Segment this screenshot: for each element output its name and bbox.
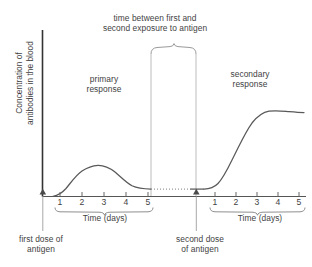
- tick-label-primary-4: 4: [120, 198, 132, 207]
- first-dose-label: first dose of antigen: [0, 234, 83, 255]
- primary-response-curve: [53, 165, 151, 196]
- tick-label-secondary-2: 2: [230, 198, 242, 207]
- gap-title-label: time between first and second exposure t…: [74, 13, 236, 34]
- tick-label-primary-3: 3: [98, 198, 110, 207]
- gap-brace: [151, 44, 196, 54]
- tick-label-primary-2: 2: [76, 198, 88, 207]
- x-axis-label-secondary: Time (days): [212, 213, 308, 223]
- tick-group-secondary: [215, 192, 299, 197]
- chart-canvas: [0, 0, 312, 267]
- tick-label-secondary-5: 5: [293, 198, 305, 207]
- antibody-response-figure: Concentration of antibodies in the blood…: [0, 0, 312, 267]
- tick-group-primary: [60, 192, 148, 197]
- tick-label-secondary-3: 3: [251, 198, 263, 207]
- secondary-response-curve: [204, 111, 304, 189]
- first-dose-arrowhead-icon: [40, 189, 47, 195]
- x-axis-label-primary: Time (days): [57, 213, 153, 223]
- tick-label-primary-5: 5: [142, 198, 154, 207]
- tick-label-secondary-4: 4: [272, 198, 284, 207]
- primary-response-label: primary response: [61, 74, 147, 95]
- second-dose-label: second dose of antigen: [154, 234, 246, 255]
- y-axis-label: Concentration of antibodies in the blood: [14, 9, 36, 157]
- tick-label-primary-1: 1: [54, 198, 66, 207]
- tick-label-secondary-1: 1: [209, 198, 221, 207]
- secondary-response-label: secondary response: [202, 69, 298, 90]
